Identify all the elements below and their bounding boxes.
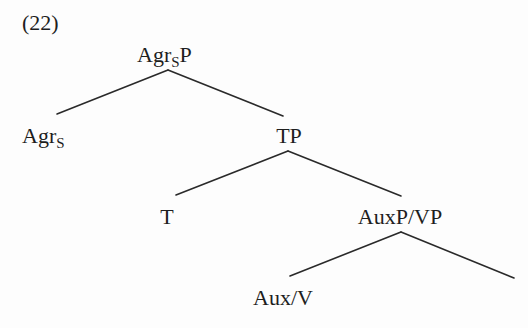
edge-auxpvp-complement: [401, 232, 514, 278]
node-agrs: AgrS: [22, 123, 65, 151]
example-number: (22): [22, 10, 59, 35]
edge-tp-t: [176, 151, 288, 195]
edge-agrsp-agrs: [57, 70, 168, 114]
node-tp: TP: [276, 123, 302, 148]
edge-auxpvp-auxv: [290, 232, 401, 276]
edge-tp-auxpvp: [288, 151, 401, 196]
node-auxpvp: AuxP/VP: [358, 204, 442, 229]
node-agrsp: AgrSP: [137, 42, 192, 70]
node-t: T: [160, 204, 174, 229]
tree-svg: (22) AgrSP AgrS TP T AuxP/VP Aux/V: [0, 0, 528, 328]
node-auxv: Aux/V: [253, 285, 313, 310]
edge-agrsp-tp: [168, 70, 283, 116]
syntax-tree-diagram: (22) AgrSP AgrS TP T AuxP/VP Aux/V: [0, 0, 528, 328]
